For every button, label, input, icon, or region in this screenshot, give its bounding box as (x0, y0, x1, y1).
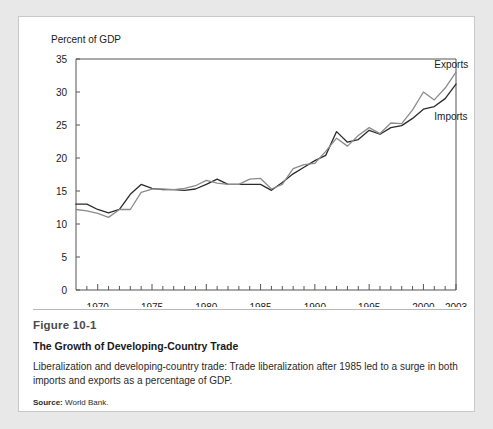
caption-divider (33, 309, 460, 310)
y-axis-tick-marks (76, 59, 80, 290)
y-axis-caption: Percent of GDP (51, 34, 121, 45)
x-tick-label: 1995 (358, 302, 381, 307)
y-tick-label: 15 (56, 186, 68, 197)
x-axis-tick-labels: 19701975198019851990199520002003 (87, 302, 468, 307)
y-tick-label: 30 (56, 87, 68, 98)
figure-card: Percent of GDP 05101520253035 1970197519… (18, 16, 475, 412)
y-tick-label: 0 (61, 285, 67, 296)
y-axis-tick-labels: 05101520253035 (56, 54, 68, 296)
series-line-imports (76, 84, 456, 213)
figure-caption-block: Figure 10-1 The Growth of Developing-Cou… (19, 309, 474, 407)
plot-frame (76, 59, 456, 290)
x-tick-label: 1990 (304, 302, 327, 307)
y-tick-label: 35 (56, 54, 68, 65)
x-tick-label: 1970 (87, 302, 110, 307)
y-tick-label: 5 (61, 252, 67, 263)
figure-description: Liberalization and developing-country tr… (33, 360, 460, 388)
x-tick-label: 1975 (141, 302, 164, 307)
y-tick-label: 25 (56, 120, 68, 131)
figure-number: Figure 10-1 (33, 319, 460, 331)
x-tick-label: 2000 (412, 302, 435, 307)
series-line-exports (76, 72, 456, 217)
y-tick-label: 10 (56, 219, 68, 230)
series-label-imports: Imports (434, 111, 467, 122)
y-tick-label: 20 (56, 153, 68, 164)
source-value: World Bank. (65, 398, 108, 407)
x-axis-tick-marks (87, 284, 456, 290)
figure-title: The Growth of Developing-Country Trade (33, 340, 460, 352)
chart-series-group (76, 72, 456, 217)
x-tick-label: 1985 (249, 302, 272, 307)
x-tick-label: 2003 (445, 302, 468, 307)
source-label: Source: (33, 398, 63, 407)
x-tick-label: 1980 (195, 302, 218, 307)
trade-line-chart: Percent of GDP 05101520253035 1970197519… (19, 17, 474, 307)
figure-source: Source: World Bank. (33, 398, 460, 407)
chart-plot-area: Percent of GDP 05101520253035 1970197519… (19, 17, 474, 307)
series-label-exports: Exports (434, 59, 468, 70)
